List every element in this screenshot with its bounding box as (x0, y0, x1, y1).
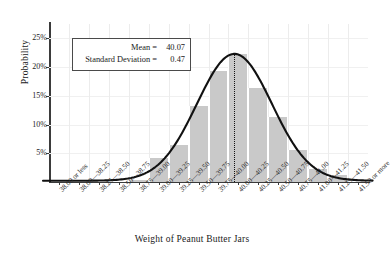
y-axis-tick-label: 10% (0, 120, 47, 129)
x-axis-tick-mark (179, 182, 180, 185)
mean-label: Mean = (131, 43, 157, 52)
std-value: 0.47 (159, 54, 185, 66)
y-axis-tick-label: 15% (0, 91, 47, 100)
statistics-annotation-box: Mean = 40.07 Standard Deviation = 0.47 (72, 38, 191, 71)
y-axis-tick-label: 25% (0, 33, 47, 42)
x-axis-title: Weight of Peanut Butter Jars (0, 234, 384, 244)
x-axis-tick-mark (199, 182, 200, 185)
y-axis-tick-label: 20% (0, 62, 47, 71)
mean-row: Mean = 40.07 (78, 42, 185, 54)
mean-marker-line (234, 54, 235, 182)
std-row: Standard Deviation = 0.47 (78, 54, 185, 66)
y-axis-tick-label: 5% (0, 148, 47, 157)
mean-value: 40.07 (159, 42, 185, 54)
std-label: Standard Deviation = (85, 55, 157, 64)
